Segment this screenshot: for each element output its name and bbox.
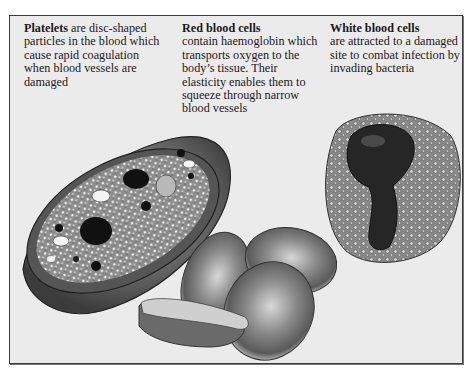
diagram-panel: Platelets are disc-shaped particles in t…: [9, 15, 463, 364]
illustration-canvas: [10, 16, 462, 363]
white-blood-cell-illustration: [326, 114, 461, 262]
